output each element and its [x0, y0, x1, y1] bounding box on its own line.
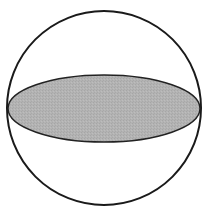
- equatorial-disc: [8, 75, 200, 142]
- diagram-canvas: [0, 0, 222, 209]
- sphere-diagram: [0, 0, 222, 209]
